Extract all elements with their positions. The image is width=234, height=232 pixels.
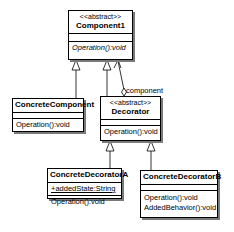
class-name: ConcreteDecoratorA xyxy=(50,170,119,180)
operation: Operation():void xyxy=(72,43,129,53)
aggregation-role-label: component xyxy=(126,86,163,95)
generalization-concretedecoratorb-to-decorator xyxy=(147,141,155,170)
stereotype-label: <<abstract>> xyxy=(71,12,130,21)
class-header: ConcreteDecoratorA xyxy=(48,169,121,183)
operations-section: Operation():void xyxy=(13,119,83,131)
attributes-section: +addedState:String xyxy=(48,183,121,196)
class-name: Component1 xyxy=(71,21,130,31)
class-concretecomponent[interactable]: ConcreteComponent Operation():void xyxy=(12,98,84,132)
class-decorator[interactable]: <<abstract>> Decorator Operation():void xyxy=(100,96,161,141)
operation: Operation():void xyxy=(16,120,80,130)
class-name: ConcreteDecoratorB xyxy=(143,172,215,182)
class-header: <<abstract>> Component1 xyxy=(69,11,132,34)
operation: AddedBehavior():void xyxy=(144,203,214,213)
operations-section: Operation():void xyxy=(69,42,132,54)
generalization-decorator-to-component1 xyxy=(103,60,111,96)
operations-section: Operation():void AddedBehavior():void xyxy=(141,191,217,214)
attribute: +addedState:String xyxy=(51,184,118,194)
class-name: ConcreteComponent xyxy=(15,100,81,110)
class-header: ConcreteDecoratorB xyxy=(141,171,217,185)
stereotype-label: <<abstract>> xyxy=(103,98,158,107)
aggregation-decorator-component xyxy=(114,60,127,96)
generalization-concretedecoratora-to-decorator xyxy=(106,141,114,168)
operation: Operation():void xyxy=(144,193,214,203)
class-component1[interactable]: <<abstract>> Component1 Operation():void xyxy=(68,10,133,60)
operation: Operation():void xyxy=(51,197,118,207)
class-concretedecoratora[interactable]: ConcreteDecoratorA +addedState:String Op… xyxy=(47,168,122,199)
class-name: Decorator xyxy=(103,107,158,117)
operations-section: Operation():void xyxy=(101,126,160,138)
class-concretedecoratorb[interactable]: ConcreteDecoratorB Operation():void Adde… xyxy=(140,170,218,218)
operations-section: Operation():void xyxy=(48,196,121,208)
class-header: ConcreteComponent xyxy=(13,99,83,113)
generalization-concretecomponent-to-component1 xyxy=(72,60,80,98)
attributes-section xyxy=(69,34,132,42)
class-header: <<abstract>> Decorator xyxy=(101,97,160,120)
operation: Operation():void xyxy=(104,127,157,137)
